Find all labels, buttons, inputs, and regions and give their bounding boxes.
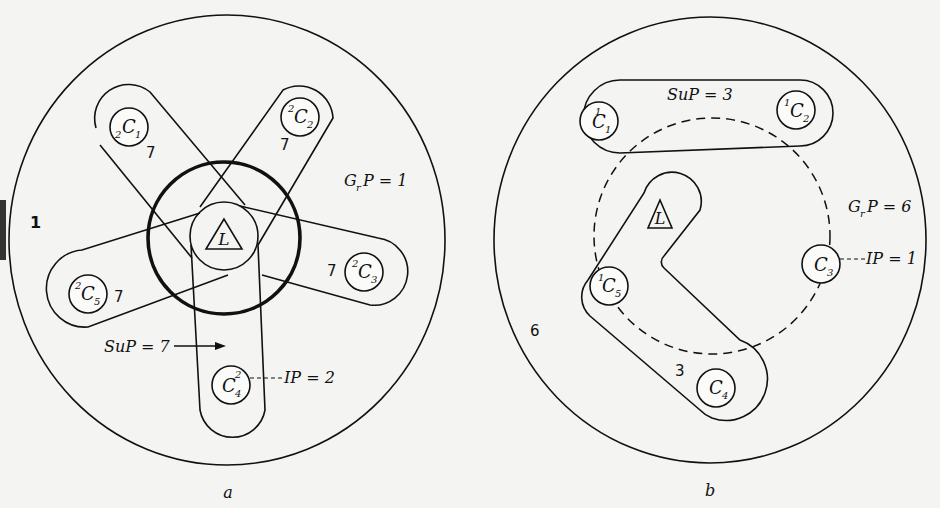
svg-text:C: C	[592, 111, 606, 132]
ligand-label-a: L	[217, 229, 229, 249]
svg-text:3: 3	[371, 274, 377, 285]
group-point-label-b: G r P = 6	[848, 197, 912, 219]
inversion-label-b: IP = 1	[865, 249, 917, 268]
svg-text:C: C	[709, 377, 723, 398]
bent-group-label-b: 3	[675, 362, 685, 380]
svg-text:2: 2	[802, 113, 809, 124]
region-label-b: 6	[530, 322, 540, 340]
superposition-label-a: SuP = 7	[104, 337, 171, 356]
svg-text:P = 1: P = 1	[362, 171, 408, 190]
svg-text:1: 1	[135, 129, 141, 140]
group-point-label-a: G r P = 1	[344, 171, 408, 193]
svg-text:C: C	[602, 275, 616, 296]
panel-a: L 2 C 1 7 2 C 2 7 2 C 3 7 C 2 4	[0, 15, 445, 502]
inversion-label-a: IP = 2	[283, 368, 335, 387]
svg-text:C: C	[790, 100, 804, 121]
svg-text:r: r	[860, 208, 866, 219]
svg-text:7: 7	[146, 144, 156, 162]
svg-text:1: 1	[605, 124, 611, 135]
svg-text:C: C	[358, 261, 372, 282]
svg-text:5: 5	[615, 288, 621, 299]
svg-text:7: 7	[114, 288, 124, 306]
svg-text:7: 7	[327, 262, 337, 280]
svg-text:C: C	[81, 283, 95, 304]
superposition-label-b: SuP = 3	[667, 85, 733, 104]
svg-text:4: 4	[721, 390, 728, 401]
sup-arrow-head	[215, 342, 226, 350]
figure-canvas: L 2 C 1 7 2 C 2 7 2 C 3 7 C 2 4	[0, 0, 940, 508]
svg-text:2: 2	[114, 129, 121, 140]
arm-c4	[191, 245, 265, 437]
svg-text:2: 2	[234, 369, 241, 380]
ligand-label-b: L	[654, 209, 666, 228]
svg-text:C: C	[814, 254, 828, 275]
caption-b: b	[705, 481, 715, 500]
svg-text:3: 3	[827, 267, 833, 278]
panel-b: L 1 C 1 1 C 2 C 3 C 4 1 C 5 Su	[494, 17, 926, 500]
svg-text:C: C	[122, 116, 136, 137]
svg-text:C: C	[222, 375, 236, 396]
svg-text:5: 5	[94, 296, 100, 307]
svg-text:r: r	[356, 182, 362, 193]
scan-edge	[0, 200, 6, 260]
svg-text:C: C	[294, 106, 308, 127]
svg-text:P = 6: P = 6	[866, 197, 912, 216]
svg-text:7: 7	[280, 136, 290, 154]
arm-c3	[240, 206, 408, 305]
svg-text:4: 4	[234, 388, 241, 399]
region-label-a: 1	[30, 213, 41, 232]
caption-a: a	[223, 483, 233, 502]
svg-text:2: 2	[306, 119, 313, 130]
